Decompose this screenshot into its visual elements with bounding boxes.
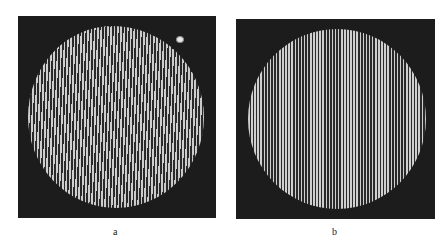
panel-label-a: a	[113, 226, 117, 237]
fringe-image-b	[236, 19, 435, 219]
interferogram-disk-b	[248, 29, 426, 209]
bright-spot	[176, 36, 184, 43]
interferogram-disk-a	[28, 26, 204, 208]
fringe-image-a	[18, 16, 216, 218]
fringe-curvature-shading	[28, 26, 204, 208]
panel-label-b: b	[332, 226, 337, 237]
